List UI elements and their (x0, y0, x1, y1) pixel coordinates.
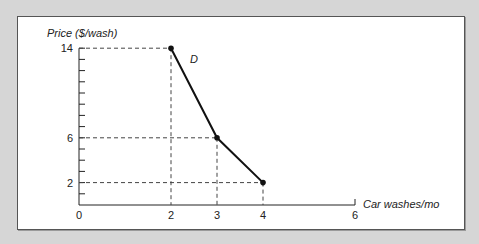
x-tick-label: 3 (214, 209, 220, 221)
x-axis-title: Car washes/mo (363, 198, 439, 210)
y-tick-label: 14 (61, 42, 73, 54)
axes: 146202346 (61, 42, 358, 221)
data-point (214, 135, 220, 141)
x-tick-label: 0 (76, 209, 82, 221)
y-tick-label: 6 (67, 132, 73, 144)
dashed-guides (79, 48, 263, 205)
curve-label: D (190, 53, 198, 65)
data-point (168, 45, 174, 51)
y-tick-label: 2 (67, 177, 73, 189)
data-point (260, 180, 266, 186)
x-tick-label: 2 (168, 209, 174, 221)
y-axis-title: Price ($/wash) (47, 27, 118, 39)
x-tick-label: 6 (352, 209, 358, 221)
demand-chart: 146202346 Price ($/wash) Car washes/mo D (0, 0, 479, 244)
x-tick-label: 4 (260, 209, 266, 221)
demand-curve (168, 45, 266, 185)
